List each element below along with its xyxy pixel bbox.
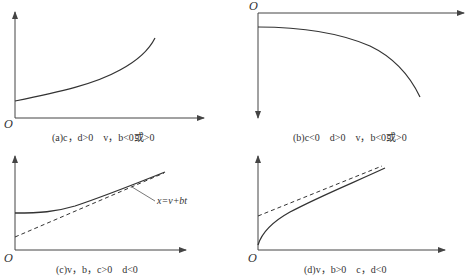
panel-c-caption: (c)v，b，c>0 d<0 bbox=[56, 261, 138, 276]
panel-b-origin-label: O bbox=[249, 0, 258, 13]
panel-b-caption: (b)c<0 d>0 v，b<0或>0 bbox=[293, 129, 407, 144]
panel-a bbox=[15, 12, 204, 118]
panel-d-dashed-asymptote bbox=[258, 166, 382, 216]
panel-b bbox=[258, 13, 464, 118]
panel-d-origin-label: O bbox=[248, 252, 257, 265]
panel-a-curve bbox=[15, 38, 155, 101]
panel-c-origin-label: O bbox=[4, 252, 13, 265]
panel-a-caption: (a)c，d>0 v，b<0或>0 bbox=[52, 129, 154, 144]
panel-a-origin-label: O bbox=[4, 118, 13, 131]
panel-c-solid-curve bbox=[15, 172, 165, 213]
panel-d bbox=[258, 156, 445, 250]
panel-b-curve bbox=[258, 27, 420, 97]
panel-c-annotation-leader bbox=[132, 187, 155, 201]
panel-c-dashed-asymptote bbox=[15, 173, 164, 237]
panel-d-caption: (d)v，b>0 c，d<0 bbox=[304, 261, 386, 276]
panel-d-solid-curve bbox=[258, 168, 385, 245]
panel-c-asymptote-label: x=v+bt bbox=[157, 195, 187, 206]
